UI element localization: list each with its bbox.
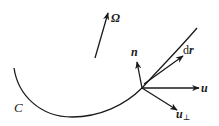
omega-label: Ω bbox=[111, 11, 120, 25]
u-perp-label: u⊥ bbox=[176, 107, 190, 122]
n-label: n bbox=[131, 45, 138, 59]
curve-c bbox=[14, 28, 197, 117]
dr-label: dr bbox=[183, 43, 194, 57]
omega-arrow bbox=[95, 13, 108, 58]
dr-arrow bbox=[144, 56, 183, 84]
dr-label-r: r bbox=[189, 43, 194, 57]
u-label: u bbox=[201, 81, 208, 95]
n-arrow bbox=[137, 62, 142, 88]
curve-label: C bbox=[14, 100, 23, 115]
u-perp-arrow bbox=[142, 88, 177, 110]
u-perp-label-sub: ⊥ bbox=[183, 113, 191, 122]
curve-velocity-diagram: C Ω n dr u u⊥ bbox=[0, 0, 219, 126]
